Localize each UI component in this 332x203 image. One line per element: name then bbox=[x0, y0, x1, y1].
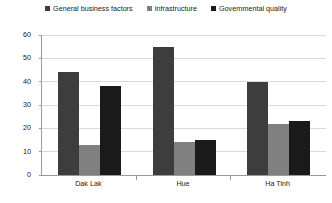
x-axis-tick-mark bbox=[230, 176, 231, 180]
bar[interactable] bbox=[268, 124, 289, 175]
legend-item-general-business-factors: General business factors bbox=[45, 5, 133, 12]
chart-legend: General business factors Infrastructure … bbox=[0, 5, 332, 12]
legend-label: General business factors bbox=[53, 5, 133, 12]
bar[interactable] bbox=[100, 86, 121, 175]
bar[interactable] bbox=[247, 82, 268, 175]
legend-item-governmental-quality: Governmental quality bbox=[211, 5, 287, 12]
x-axis-label: Hue bbox=[136, 180, 231, 187]
y-axis-tick-label: 20 bbox=[5, 125, 31, 132]
bar[interactable] bbox=[195, 140, 216, 175]
bar[interactable] bbox=[289, 121, 310, 175]
bar-chart: General business factors Infrastructure … bbox=[0, 0, 332, 203]
legend-item-infrastructure: Infrastructure bbox=[147, 5, 197, 12]
y-axis-tick-label: 60 bbox=[5, 31, 31, 38]
bar[interactable] bbox=[58, 72, 79, 175]
legend-swatch-icon bbox=[147, 6, 152, 11]
legend-label: Governmental quality bbox=[219, 5, 287, 12]
bar-group bbox=[231, 35, 326, 175]
y-axis-tick-label: 10 bbox=[5, 148, 31, 155]
y-axis-tick-label: 0 bbox=[5, 171, 31, 178]
bar-group bbox=[42, 35, 137, 175]
legend-swatch-icon bbox=[211, 6, 216, 11]
legend-label: Infrastructure bbox=[155, 5, 197, 12]
x-axis-tick-mark bbox=[136, 176, 137, 180]
x-axis-label: Ha Tinh bbox=[230, 180, 325, 187]
bar[interactable] bbox=[153, 47, 174, 175]
bar-group bbox=[137, 35, 232, 175]
legend-swatch-icon bbox=[45, 6, 50, 11]
y-axis-tick-label: 50 bbox=[5, 55, 31, 62]
bar-groups bbox=[42, 35, 326, 175]
bar[interactable] bbox=[174, 142, 195, 175]
plot-area: 0102030405060 bbox=[41, 35, 326, 176]
x-axis-label: Dak Lak bbox=[41, 180, 136, 187]
x-axis-labels: Dak LakHueHa Tinh bbox=[41, 180, 325, 187]
bar[interactable] bbox=[79, 145, 100, 175]
y-axis-tick-label: 40 bbox=[5, 78, 31, 85]
y-axis-tick-label: 30 bbox=[5, 101, 31, 108]
